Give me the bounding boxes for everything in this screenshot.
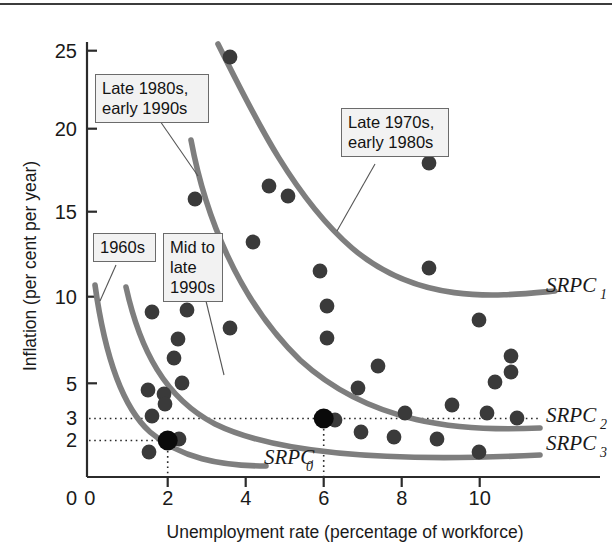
x-axis-ticks xyxy=(168,477,480,487)
data-point xyxy=(354,425,369,440)
srpc1-curve xyxy=(218,44,555,295)
y-tick-label-25: 25 xyxy=(55,40,77,62)
data-point xyxy=(188,192,203,207)
data-point xyxy=(167,351,182,366)
data-point xyxy=(398,406,413,421)
data-point xyxy=(430,432,445,447)
key-point-srpc0 xyxy=(158,431,178,451)
y-tick-label-3: 3 xyxy=(66,407,77,429)
y-tick-label-5: 5 xyxy=(66,373,77,395)
data-point xyxy=(351,381,366,396)
callout-late-1970s-early-1980s: Late 1970s, early 1980s xyxy=(341,108,449,157)
data-point xyxy=(175,376,190,391)
data-point xyxy=(281,189,296,204)
srpc1-label: SRPC xyxy=(546,273,597,297)
origin-label: 0 xyxy=(66,487,77,509)
phillips-curve-figure: 25 20 15 10 5 3 2 0 0 2 4 6 8 10 Inflati xyxy=(0,0,612,554)
data-point xyxy=(488,375,503,390)
srpc1-label-subscript: 1 xyxy=(600,287,607,302)
data-point xyxy=(158,397,173,412)
data-point xyxy=(445,398,460,413)
data-point xyxy=(246,235,261,250)
key-point-srpc2 xyxy=(314,409,334,429)
srpc3-label: SRPC xyxy=(546,431,597,455)
x-tick-label-6: 6 xyxy=(318,487,329,509)
srpc3-label-subscript: 3 xyxy=(599,445,607,460)
data-point xyxy=(262,179,277,194)
data-point xyxy=(472,313,487,328)
x-tick-label-0: 0 xyxy=(84,487,95,509)
data-point xyxy=(387,430,402,445)
callout-late-1980s-early-1990s: Late 1980s, early 1990s xyxy=(95,74,209,123)
data-point xyxy=(142,445,157,460)
srpc2-label-subscript: 2 xyxy=(600,417,607,432)
data-point xyxy=(371,359,386,374)
data-point xyxy=(320,299,335,314)
y-tick-label-2: 2 xyxy=(66,429,77,451)
y-axis-title: Inflation (per cent per year) xyxy=(20,161,40,371)
x-tick-label-4: 4 xyxy=(240,487,251,509)
x-axis-tick-labels: 0 2 4 6 8 10 xyxy=(84,487,491,509)
data-point xyxy=(223,321,238,336)
x-tick-label-2: 2 xyxy=(162,487,173,509)
data-point xyxy=(171,332,186,347)
x-tick-label-8: 8 xyxy=(396,487,407,509)
data-point xyxy=(180,303,195,318)
chart-canvas: 25 20 15 10 5 3 2 0 0 2 4 6 8 10 Inflati xyxy=(0,0,612,554)
y-tick-label-10: 10 xyxy=(55,286,77,308)
srpc2-curve xyxy=(191,140,540,429)
y-tick-label-20: 20 xyxy=(55,118,77,140)
y-tick-label-15: 15 xyxy=(55,201,77,223)
data-point xyxy=(320,331,335,346)
data-point xyxy=(141,383,156,398)
data-point xyxy=(480,406,495,421)
data-point xyxy=(145,409,160,424)
leader-1960s xyxy=(100,265,116,301)
y-axis-tick-labels: 25 20 15 10 5 3 2 0 xyxy=(55,40,77,509)
data-point xyxy=(510,411,525,426)
data-point xyxy=(422,261,437,276)
data-point xyxy=(422,156,437,171)
x-tick-label-10: 10 xyxy=(469,487,491,509)
srpc0-label-subscript: 0 xyxy=(306,459,313,474)
leader-late70s xyxy=(337,164,375,231)
leader-mid90s xyxy=(206,301,224,375)
callout-1960s: 1960s xyxy=(93,233,156,262)
data-point xyxy=(313,264,328,279)
srpc2-label: SRPC xyxy=(546,403,597,427)
x-axis-title: Unemployment rate (percentage of workfor… xyxy=(167,522,524,542)
data-point xyxy=(145,305,160,320)
data-point xyxy=(223,50,238,65)
callout-mid-to-late-1990s: Mid to late 1990s xyxy=(163,233,223,302)
data-point xyxy=(504,365,519,380)
data-point xyxy=(472,445,487,460)
data-point xyxy=(504,349,519,364)
